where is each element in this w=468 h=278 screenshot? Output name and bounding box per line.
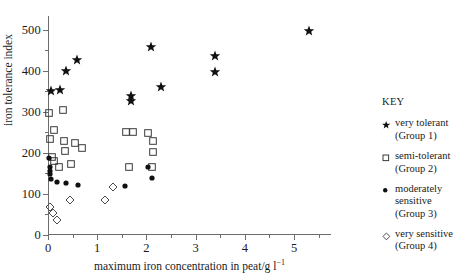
data-point-square-open <box>149 147 158 156</box>
data-point-circle-filled <box>53 179 60 186</box>
data-point-square-open <box>78 143 87 152</box>
legend-entry-2: semi-tolerant (Group 2) <box>382 150 468 175</box>
diamond-open-icon <box>382 228 395 241</box>
x-axis-title: maximum iron concentration in peat/g l−1 <box>48 258 331 272</box>
y-tick-label: 100 <box>22 186 41 201</box>
data-point-square-open <box>60 136 69 145</box>
x-tick-minor <box>220 235 221 238</box>
data-point-square-open <box>50 126 59 135</box>
data-point-circle-filled <box>122 182 129 189</box>
data-point-square-open <box>46 135 55 144</box>
data-point-circle-filled <box>74 181 81 188</box>
x-tick-minor <box>171 235 172 238</box>
x-tick-label: 1 <box>94 241 100 256</box>
data-point-diamond-open <box>52 215 62 225</box>
x-tick <box>48 235 49 240</box>
y-tick-label: 200 <box>22 145 41 160</box>
legend-entry-3: moderately sensitive (Group 3) <box>382 183 468 220</box>
y-tick-label: 400 <box>22 63 41 78</box>
y-tick <box>43 71 48 72</box>
x-tick <box>245 235 246 240</box>
data-point-star-filled <box>209 50 220 61</box>
data-point-circle-filled <box>149 174 156 181</box>
data-point-star-filled <box>126 95 137 106</box>
y-tick-label: 0 <box>35 228 41 243</box>
legend-entry-1: very tolerant (Group 1) <box>382 117 468 142</box>
legend-label: moderately sensitive (Group 3) <box>395 183 442 220</box>
y-tick-minor <box>45 132 48 133</box>
circle-filled-icon <box>382 183 395 193</box>
x-tick-label: 3 <box>193 241 199 256</box>
legend-title: KEY <box>382 96 468 108</box>
y-tick-label: 300 <box>22 104 41 119</box>
y-tick-label: 500 <box>22 22 41 37</box>
chart-legend: KEY very tolerant (Group 1)semi-tolerant… <box>382 96 468 261</box>
star-filled-icon <box>382 117 395 129</box>
data-point-circle-filled <box>45 154 52 161</box>
data-point-diamond-open <box>100 195 110 205</box>
x-tick-label: 5 <box>291 241 297 256</box>
x-tick-minor <box>122 235 123 238</box>
plot-frame <box>48 16 331 235</box>
x-tick <box>146 235 147 240</box>
y-axis-title: iron tolerance index <box>2 34 14 126</box>
scatter-chart-figure: iron tolerance index 0100200300400500 01… <box>0 0 468 278</box>
data-point-diamond-open <box>65 195 75 205</box>
data-point-square-open <box>129 128 138 137</box>
square-open-icon <box>382 150 395 162</box>
data-point-star-filled <box>72 54 83 65</box>
data-point-circle-filled <box>145 163 152 170</box>
data-point-square-open <box>67 159 76 168</box>
data-point-star-filled <box>146 41 157 52</box>
x-tick <box>196 235 197 240</box>
data-point-square-open <box>45 108 54 117</box>
legend-entries: very tolerant (Group 1)semi-tolerant (Gr… <box>382 117 468 252</box>
x-tick-minor <box>319 235 320 238</box>
data-point-star-filled <box>304 25 315 36</box>
data-point-star-filled <box>155 81 166 92</box>
data-point-square-open <box>125 163 134 172</box>
y-tick-minor <box>45 50 48 51</box>
data-point-diamond-open <box>108 182 118 192</box>
legend-entry-4: very sensitive (Group 4) <box>382 228 468 253</box>
x-tick-minor <box>269 235 270 238</box>
x-tick-minor <box>73 235 74 238</box>
data-point-star-filled <box>209 66 220 77</box>
x-tick <box>97 235 98 240</box>
data-point-circle-filled <box>63 180 70 187</box>
x-tick-label: 0 <box>45 241 51 256</box>
data-point-square-open <box>149 136 158 145</box>
plot-area: 0100200300400500 012345 <box>48 16 331 235</box>
x-tick-label: 2 <box>143 241 149 256</box>
x-tick <box>294 235 295 240</box>
data-point-square-open <box>61 147 70 156</box>
data-point-square-open <box>55 163 64 172</box>
legend-label: very sensitive (Group 4) <box>395 228 453 253</box>
x-tick-label: 4 <box>242 241 248 256</box>
legend-label: semi-tolerant (Group 2) <box>395 150 450 175</box>
y-tick <box>43 30 48 31</box>
data-point-star-filled <box>54 84 65 95</box>
legend-label: very tolerant (Group 1) <box>395 117 448 142</box>
y-tick <box>43 194 48 195</box>
data-point-star-filled <box>61 65 72 76</box>
data-point-square-open <box>59 106 68 115</box>
